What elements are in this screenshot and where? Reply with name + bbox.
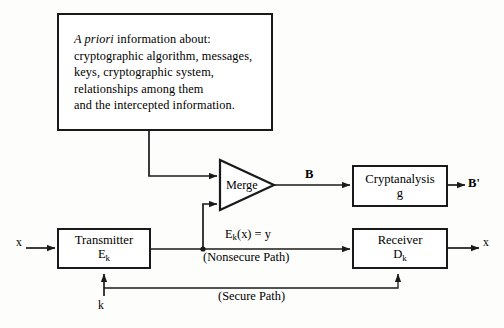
connector-nonsecure-tap-to-merge <box>200 204 217 252</box>
cryptanalysis-title: Cryptanalysis <box>365 172 434 186</box>
plaintext-input-label: x <box>16 237 22 249</box>
nonsecure-path-label: (Nonsecure Path) <box>203 251 289 263</box>
plaintext-output-label: x <box>483 237 489 249</box>
secure-path-label: (Secure Path) <box>218 290 285 302</box>
apriori-line-4: relationships among them <box>74 81 271 98</box>
apriori-information-box: A priori information about: cryptographi… <box>57 13 273 131</box>
receiver-function: Dk <box>393 247 407 265</box>
apriori-line-3: keys, cryptographic system, <box>74 64 271 81</box>
apriori-line-5: and the intercepted information. <box>74 97 271 114</box>
cryptanalysis-output-label: B' <box>468 177 480 190</box>
receiver-box: Receiver Dk <box>352 228 448 269</box>
cryptanalysis-function: g <box>397 186 403 200</box>
transmitter-function: Ek <box>98 247 110 265</box>
transmitter-box: Transmitter Ek <box>57 228 151 269</box>
transmitter-title: Transmitter <box>75 233 133 247</box>
cryptography-system-diagram: A priori information about: cryptographi… <box>0 0 504 328</box>
apriori-line-2: cryptographic algorithm, messages, <box>74 48 271 65</box>
key-label: k <box>98 300 104 312</box>
merge-output-label: B <box>305 168 313 181</box>
ciphertext-expression-label: Ek(x) = y <box>225 228 271 242</box>
cryptanalysis-box: Cryptanalysis g <box>352 165 448 207</box>
connector-apriori-to-merge <box>149 131 217 176</box>
merge-node-label: Merge <box>226 179 258 191</box>
apriori-line-1: A priori information about: <box>74 31 271 48</box>
receiver-title: Receiver <box>378 233 423 247</box>
